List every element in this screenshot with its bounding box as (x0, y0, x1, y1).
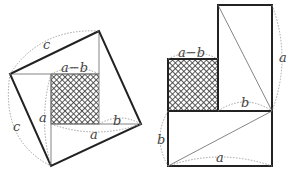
label-b: b (113, 113, 121, 128)
label-a-minus-b: a−b (61, 60, 88, 75)
label-c-left: c (13, 119, 21, 134)
left-figure: c c a−b a a b (8, 31, 141, 166)
label-c-top: c (43, 37, 51, 52)
label-a-bottom: a (216, 150, 224, 165)
pythagorean-proof-diagram: c c a−b a a b a−b a b b a (0, 0, 293, 177)
label-a-vertical: a (39, 110, 47, 125)
hatched-square (51, 74, 99, 124)
right-figure: a−b a b b a (157, 5, 287, 166)
label-b-left: b (157, 132, 165, 147)
hatched-square (168, 59, 218, 111)
label-a-minus-b: a−b (178, 45, 205, 60)
label-a-right: a (279, 50, 287, 65)
label-a-horizontal: a (90, 127, 98, 142)
label-b-middle: b (241, 95, 249, 110)
